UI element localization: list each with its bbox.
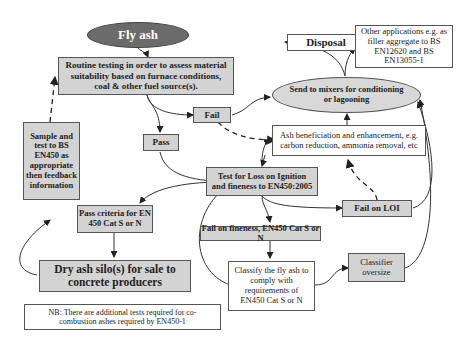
pass-label: Pass <box>152 137 169 147</box>
note-label: NB: There are additional tests required … <box>31 308 214 326</box>
fly-ash-label: Fly ash <box>118 28 158 43</box>
ash-beneficiation-label: Ash beneficiation and enhancement, e.g. … <box>279 131 419 151</box>
disposal-label: Disposal <box>306 36 346 49</box>
classifier-oversize-label: Classifier oversize <box>350 258 403 278</box>
send-to-mixers-label: Send to mixers for conditioning or lagoo… <box>287 85 406 105</box>
fail-on-fineness-label: Fail on fineness, EN450 Cat S or N <box>201 224 320 244</box>
test-loi-label: Test for Loss on Ignition and fineness t… <box>211 172 313 192</box>
sample-test-box: Sample and test to BS EN450 as appropria… <box>23 122 80 200</box>
fail-box: Fail <box>193 107 231 123</box>
pass-box: Pass <box>143 134 179 151</box>
classifier-oversize-box: Classifier oversize <box>348 253 405 282</box>
fly-ash-node: Fly ash <box>87 22 189 48</box>
classify-box: Classify the fly ash to comply with requ… <box>228 261 315 311</box>
disposal-box: Disposal <box>287 34 365 51</box>
fail-on-loi-label: Fail on LOI <box>354 203 400 213</box>
test-loi-box: Test for Loss on Ignition and fineness t… <box>206 167 318 196</box>
pass-criteria-box: Pass criteria for EN 450 Cat S or N <box>77 205 153 233</box>
classify-label: Classify the fly ash to comply with requ… <box>232 266 311 305</box>
ash-beneficiation-box: Ash beneficiation and enhancement, e.g. … <box>272 125 426 156</box>
sample-test-label: Sample and test to BS EN450 as appropria… <box>26 132 77 191</box>
pass-criteria-label: Pass criteria for EN 450 Cat S or N <box>79 209 151 229</box>
fail-on-fineness-box: Fail on fineness, EN450 Cat S or N <box>200 226 321 241</box>
dry-ash-silo-box: Dry ash silo(s) for sale to concrete pro… <box>39 260 191 292</box>
dry-ash-silo-label: Dry ash silo(s) for sale to concrete pro… <box>44 263 186 289</box>
fail-on-loi-box: Fail on LOI <box>342 200 412 217</box>
routine-testing-box: Routine testing in order to assess mater… <box>58 57 234 95</box>
routine-testing-label: Routine testing in order to assess mater… <box>65 60 227 91</box>
other-applications-label: Other applications e.g. as filler aggreg… <box>360 27 448 66</box>
other-applications-box: Other applications e.g. as filler aggreg… <box>355 25 453 68</box>
send-to-mixers-node: Send to mixers for conditioning or lagoo… <box>272 77 421 113</box>
note-box: NB: There are additional tests required … <box>24 304 221 330</box>
fail-label: Fail <box>205 110 220 120</box>
